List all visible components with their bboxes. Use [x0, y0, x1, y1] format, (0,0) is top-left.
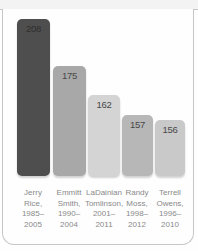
page: 208 175 162 157 156 Jerry Rice, 1985– 20… [0, 0, 198, 251]
chart-card [2, 9, 194, 245]
page-top-margin [0, 0, 198, 9]
